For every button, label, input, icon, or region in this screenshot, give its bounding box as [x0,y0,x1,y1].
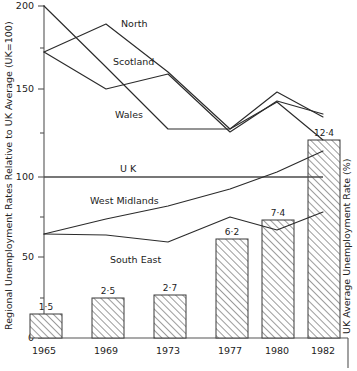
bar-value-1982: 12·4 [314,128,334,138]
bar-value-1973: 2·7 [163,283,177,293]
bar-1982 [308,140,340,338]
ytick-label-100: 100 [16,171,34,182]
ytick-label-200: 200 [16,0,34,11]
y-axis-left-title: Regional Unemployment Rates Relative to … [3,21,14,330]
bar-1965 [30,314,62,338]
bar-1980 [262,220,294,338]
xtick-label-1973: 1973 [156,345,180,356]
bar-1969 [92,298,124,338]
bar-1977 [216,239,248,338]
y-axis-right-title: UK Average Unemployment Rate (%) [341,158,352,334]
xtick-label-1977: 1977 [218,345,242,356]
y-axis-major-ticks [38,6,44,338]
line-series-group [44,6,323,242]
series-line-wales [44,6,323,140]
ytick-label-150: 150 [16,83,34,94]
bar-value-1977: 6·2 [225,227,239,237]
bar-1973 [154,295,186,338]
series-label-south-east: South East [110,254,161,265]
series-label-group: North Scotland Wales U K West Midlands S… [90,18,161,265]
y-axis-minor-ticks [40,48,44,298]
bar-value-1980: 7·4 [271,208,286,218]
regional-unemployment-chart: 200 150 100 50 0 1965 1969 1973 1977 198… [0,0,357,371]
xtick-label-1969: 1969 [94,345,118,356]
series-label-uk: U K [120,163,137,174]
ytick-label-50: 50 [22,251,34,262]
bar-series-uk-unemployment-rate: 1·5 2·5 2·7 6·2 7·4 12·4 [30,128,340,338]
series-line-scotland [44,52,323,132]
series-label-north: North [121,18,148,29]
series-label-wales: Wales [115,109,143,120]
chart-svg: 200 150 100 50 0 1965 1969 1973 1977 198… [0,0,357,371]
series-label-scotland: Scotland [113,56,154,67]
bar-value-1969: 2·5 [101,286,115,296]
xtick-label-1982: 1982 [311,345,335,356]
xtick-label-1980: 1980 [265,345,289,356]
bar-value-1965: 1·5 [39,302,53,312]
xtick-label-1965: 1965 [32,345,56,356]
series-label-west-midlands: West Midlands [90,195,159,206]
